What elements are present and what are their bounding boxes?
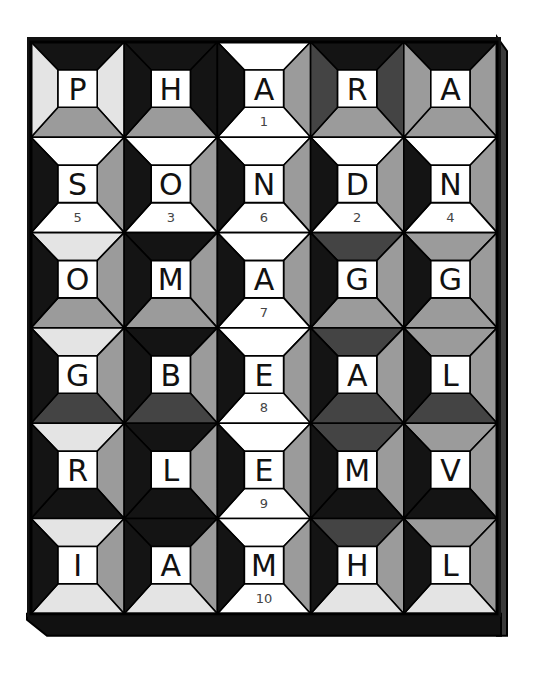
puzzle-board: PHA1RAS5O3N6D2N4OMA7GGGBE8ALRLE9MVIAM10H…	[0, 0, 548, 677]
cell-r1-c1[interactable]: P	[31, 42, 124, 137]
cell-letter: N	[439, 167, 461, 202]
cell-r4-c1[interactable]: G	[31, 328, 124, 423]
cell-r1-c5[interactable]: A	[404, 42, 497, 137]
cell-clue-number: 9	[260, 496, 268, 511]
cell-clue-number: 5	[73, 210, 81, 225]
cell-r2-c3[interactable]: N6	[217, 137, 310, 232]
cell-r1-c4[interactable]: R	[311, 42, 404, 137]
cell-r6-c2[interactable]: A	[124, 519, 217, 614]
cell-r1-c2[interactable]: H	[124, 42, 217, 137]
cell-clue-number: 2	[353, 210, 361, 225]
cell-r3-c3[interactable]: A7	[217, 233, 310, 328]
cell-letter: D	[346, 167, 369, 202]
cell-r2-c4[interactable]: D2	[311, 137, 404, 232]
cell-r6-c5[interactable]: L	[404, 519, 497, 614]
cell-letter: G	[66, 358, 89, 393]
cell-letter: P	[69, 72, 87, 107]
cell-letter: G	[346, 262, 369, 297]
cell-clue-number: 6	[260, 210, 268, 225]
cell-letter: A	[254, 262, 275, 297]
cell-r5-c2[interactable]: L	[124, 423, 217, 518]
cell-r5-c3[interactable]: E9	[217, 423, 310, 518]
cell-r3-c5[interactable]: G	[404, 233, 497, 328]
cell-r4-c5[interactable]: L	[404, 328, 497, 423]
cell-clue-number: 1	[260, 114, 268, 129]
cell-letter: H	[346, 548, 369, 583]
cell-letter: L	[442, 548, 459, 583]
cell-r6-c4[interactable]: H	[311, 519, 404, 614]
cell-letter: E	[255, 453, 274, 488]
cell-letter: H	[160, 72, 183, 107]
cell-letter: R	[67, 453, 88, 488]
cell-r6-c1[interactable]: I	[31, 519, 124, 614]
cell-letter: L	[442, 358, 459, 393]
cell-r4-c2[interactable]: B	[124, 328, 217, 423]
cell-r3-c1[interactable]: O	[31, 233, 124, 328]
cell-letter: A	[440, 72, 461, 107]
cell-letter: M	[344, 453, 370, 488]
cell-clue-number: 10	[256, 591, 273, 606]
cell-clue-number: 8	[260, 400, 268, 415]
cell-letter: V	[440, 453, 461, 488]
cell-letter: M	[251, 548, 277, 583]
cell-clue-number: 7	[260, 305, 268, 320]
cell-r5-c5[interactable]: V	[404, 423, 497, 518]
cell-letter: B	[161, 358, 182, 393]
cell-r5-c4[interactable]: M	[311, 423, 404, 518]
cell-letter: G	[439, 262, 462, 297]
cell-r1-c3[interactable]: A1	[217, 42, 310, 137]
cell-letter: N	[253, 167, 275, 202]
puzzle-grid: PHA1RAS5O3N6D2N4OMA7GGGBE8ALRLE9MVIAM10H…	[31, 42, 497, 614]
cell-r5-c1[interactable]: R	[31, 423, 124, 518]
cell-clue-number: 4	[446, 210, 454, 225]
cell-letter: E	[255, 358, 274, 393]
cell-r6-c3[interactable]: M10	[217, 519, 310, 614]
cell-letter: O	[159, 167, 183, 202]
cell-letter: A	[254, 72, 275, 107]
cell-letter: A	[347, 358, 368, 393]
cell-letter: I	[73, 548, 82, 583]
cell-r3-c4[interactable]: G	[311, 233, 404, 328]
board-bottom-panel	[27, 614, 501, 636]
cell-r2-c2[interactable]: O3	[124, 137, 217, 232]
cell-letter: M	[158, 262, 184, 297]
cell-letter: A	[161, 548, 182, 583]
cell-clue-number: 3	[167, 210, 175, 225]
cell-r2-c5[interactable]: N4	[404, 137, 497, 232]
cell-r4-c4[interactable]: A	[311, 328, 404, 423]
cell-letter: O	[66, 262, 90, 297]
cell-r3-c2[interactable]: M	[124, 233, 217, 328]
cell-r2-c1[interactable]: S5	[31, 137, 124, 232]
cell-letter: R	[347, 72, 368, 107]
cell-letter: S	[68, 167, 87, 202]
cell-letter: L	[162, 453, 179, 488]
cell-r4-c3[interactable]: E8	[217, 328, 310, 423]
